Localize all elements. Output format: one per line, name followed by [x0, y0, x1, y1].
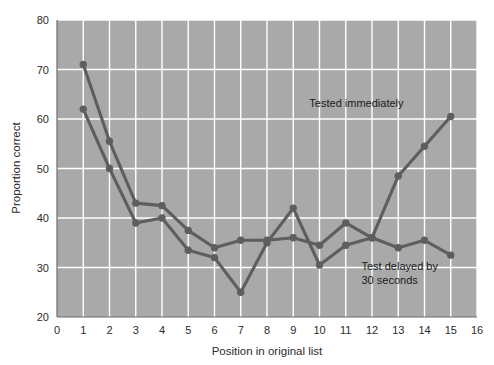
data-point	[158, 214, 165, 221]
data-point	[447, 113, 454, 120]
data-point	[106, 138, 113, 145]
serial-position-curve-chart: 20304050607080 012345678910111213141516 …	[0, 0, 494, 365]
data-point	[316, 242, 323, 249]
y-tick-label-70: 70	[37, 64, 49, 76]
x-tick-label-7: 7	[238, 324, 244, 336]
data-point	[395, 244, 402, 251]
chart-container: 20304050607080 012345678910111213141516 …	[0, 0, 494, 365]
data-point	[263, 239, 270, 246]
data-point	[237, 237, 244, 244]
x-tick-label-14: 14	[418, 324, 430, 336]
x-tick-label-1: 1	[80, 324, 86, 336]
series-annotation-tested-immediately: Tested immediately	[309, 97, 404, 109]
y-axis-tick-labels: 20304050607080	[37, 14, 49, 323]
data-point	[421, 237, 428, 244]
data-point	[447, 251, 454, 258]
data-point	[80, 61, 87, 68]
y-tick-label-30: 30	[37, 262, 49, 274]
data-point	[342, 219, 349, 226]
data-point	[421, 143, 428, 150]
y-tick-label-40: 40	[37, 212, 49, 224]
y-tick-label-50: 50	[37, 163, 49, 175]
data-point	[316, 261, 323, 268]
data-point	[132, 219, 139, 226]
data-point	[185, 246, 192, 253]
x-tick-label-15: 15	[445, 324, 457, 336]
data-point	[211, 244, 218, 251]
x-tick-label-10: 10	[313, 324, 325, 336]
data-point	[395, 172, 402, 179]
x-tick-label-0: 0	[54, 324, 60, 336]
x-tick-label-8: 8	[264, 324, 270, 336]
data-point	[80, 105, 87, 112]
x-tick-label-16: 16	[471, 324, 483, 336]
x-tick-label-2: 2	[106, 324, 112, 336]
x-tick-label-13: 13	[392, 324, 404, 336]
data-point	[158, 202, 165, 209]
x-axis-tick-labels: 012345678910111213141516	[54, 324, 483, 336]
data-point	[368, 234, 375, 241]
data-point	[132, 199, 139, 206]
data-point	[290, 234, 297, 241]
x-tick-label-12: 12	[366, 324, 378, 336]
series-annotation-test-delayed-line2: 30 seconds	[362, 274, 419, 286]
y-axis-title: Proportion correct	[10, 121, 22, 213]
data-point	[342, 242, 349, 249]
data-point	[211, 254, 218, 261]
data-point	[237, 289, 244, 296]
data-point	[106, 165, 113, 172]
y-tick-label-80: 80	[37, 14, 49, 26]
x-tick-label-3: 3	[133, 324, 139, 336]
x-tick-label-4: 4	[159, 324, 165, 336]
x-tick-label-6: 6	[211, 324, 217, 336]
x-tick-label-11: 11	[340, 324, 351, 336]
series-annotation-test-delayed-line1: Test delayed by	[362, 260, 439, 272]
data-point	[290, 204, 297, 211]
data-point	[185, 227, 192, 234]
x-tick-label-5: 5	[185, 324, 191, 336]
y-tick-label-60: 60	[37, 113, 49, 125]
y-tick-label-20: 20	[37, 311, 49, 323]
x-axis-title: Position in original list	[212, 345, 323, 357]
x-tick-label-9: 9	[290, 324, 296, 336]
